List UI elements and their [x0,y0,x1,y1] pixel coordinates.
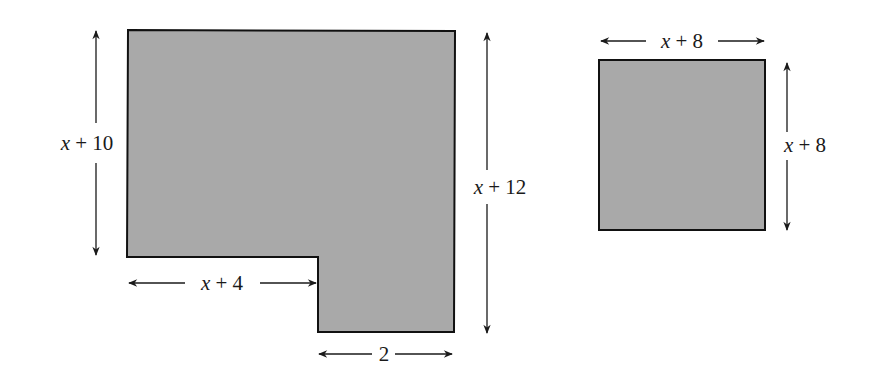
square-rect [599,60,765,230]
l-shape-polygon [127,30,455,332]
l-shaped-figure [127,30,455,332]
left-height-label: x + 10 [60,131,114,155]
notch-width-dimension: 2 [319,342,452,366]
square-figure [599,60,765,230]
square-width-dimension: x + 8 [601,29,764,53]
square-height-label: x + 8 [783,133,826,157]
bottom-width-label: x + 4 [200,271,244,295]
notch-width-label: 2 [379,342,390,366]
right-height-dimension: x + 12 [473,33,527,333]
bottom-width-dimension: x + 4 [129,271,316,295]
diagram-canvas: x + 10 x + 12 x + 4 2 x + 8 x + 8 [0,0,873,373]
right-height-label: x + 12 [473,175,527,199]
square-height-dimension: x + 8 [783,63,826,230]
square-width-label: x + 8 [660,29,703,53]
left-height-dimension: x + 10 [60,31,114,255]
